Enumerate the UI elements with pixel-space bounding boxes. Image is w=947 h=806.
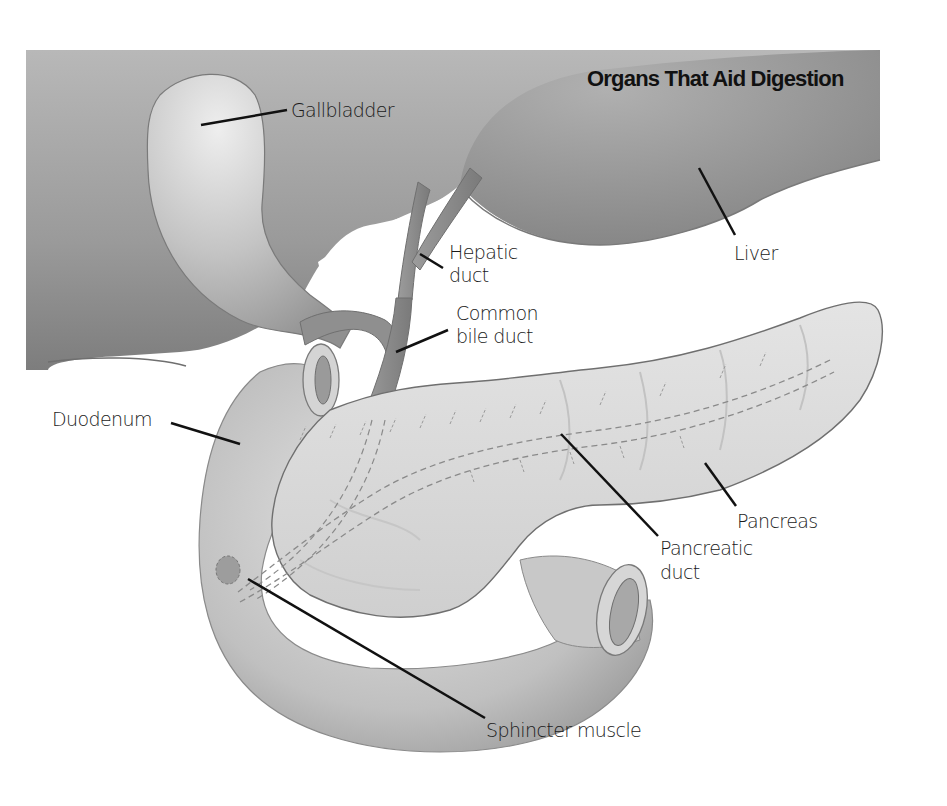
sphincter-muscle	[216, 556, 240, 584]
label-pancreatic-duct-line1: Pancreatic	[660, 537, 753, 559]
label-gallbladder: Gallbladder	[291, 99, 394, 121]
label-sphincter-muscle: Sphincter muscle	[486, 719, 641, 741]
figure-title: Organs That Aid Digestion	[587, 66, 844, 92]
label-hepatic-duct-line1: Hepatic	[449, 241, 518, 263]
label-common-bile-duct-line2: bile duct	[456, 325, 533, 347]
label-liver: Liver	[734, 242, 778, 264]
label-common-bile-duct-line1: Common	[456, 302, 538, 324]
digestive-organs-diagram: Organs That Aid Digestion Gallbladder He…	[0, 0, 947, 806]
label-hepatic-duct-line2: duct	[449, 264, 489, 286]
label-pancreatic-duct-line2: duct	[660, 561, 700, 583]
label-pancreas: Pancreas	[737, 510, 818, 532]
anatomy-illustration	[0, 0, 947, 806]
label-duodenum: Duodenum	[52, 408, 152, 430]
